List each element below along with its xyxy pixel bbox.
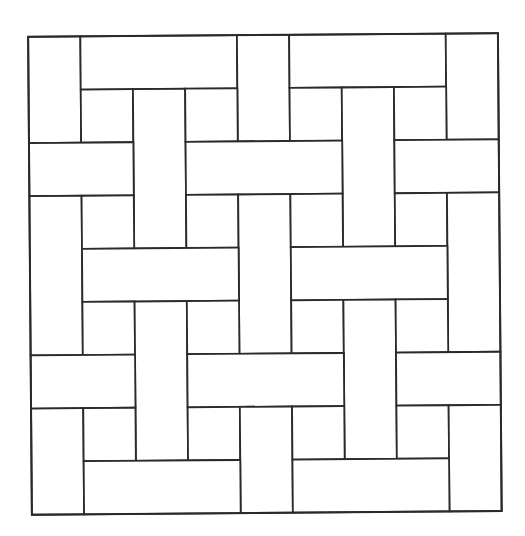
tile-square (81, 89, 134, 143)
tile-vertical (342, 87, 395, 247)
tile-square (394, 87, 447, 141)
tile-horizontal (289, 34, 446, 88)
tile-horizontal (29, 142, 134, 196)
tile-vertical (29, 196, 82, 356)
tile-vertical (135, 301, 188, 461)
tile-square (291, 300, 344, 354)
basketweave-diagram (0, 0, 525, 536)
tile-vertical (28, 36, 81, 143)
tile-square (290, 87, 343, 141)
tile-square (290, 194, 343, 248)
tile-vertical (343, 299, 396, 459)
tile-square (83, 408, 136, 462)
tile-vertical (238, 194, 291, 354)
tile-horizontal (84, 460, 241, 514)
tile-vertical (133, 89, 186, 249)
tile-square (82, 195, 135, 249)
tile-square (186, 195, 239, 249)
tile-square (395, 193, 448, 247)
tile-horizontal (396, 352, 501, 406)
tile-square (396, 299, 449, 353)
tile-horizontal (292, 458, 449, 512)
tile-vertical (447, 192, 500, 352)
tile-square (188, 407, 241, 461)
tile-vertical (31, 408, 84, 515)
tile-vertical (237, 35, 290, 142)
tile-square (396, 405, 449, 459)
tile-horizontal (82, 248, 239, 302)
tile-horizontal (186, 141, 343, 195)
tile-vertical (449, 405, 502, 512)
tile-square (185, 88, 238, 142)
tile-horizontal (31, 355, 136, 409)
tile-horizontal (291, 246, 448, 300)
tile-square (82, 302, 135, 356)
tile-square (187, 301, 240, 355)
tiling-group (28, 33, 502, 515)
tile-vertical (446, 33, 499, 140)
tile-horizontal (80, 35, 237, 89)
tile-horizontal (394, 139, 499, 193)
tile-horizontal (187, 353, 344, 407)
tile-vertical (240, 406, 293, 513)
tile-square (292, 406, 345, 460)
